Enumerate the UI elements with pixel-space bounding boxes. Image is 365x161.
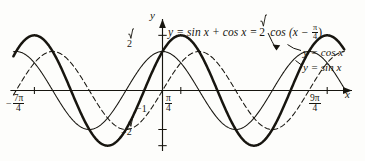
x-tick-label-9pi-4: 9π4: [309, 94, 321, 114]
sqrt-symbol: 2: [128, 28, 134, 49]
y-axis-label: y: [150, 10, 155, 21]
y-tick-label-neg-sqrt2: −2: [121, 116, 134, 138]
y-tick-label-neg-1: −1: [136, 104, 147, 114]
leader-line-cos: [288, 45, 302, 51]
leader-line-sin: [296, 61, 302, 66]
y-axis-arrowhead: [159, 19, 166, 28]
curve-label-cos: y = cos x: [303, 47, 343, 58]
x-tick-label-pi-4: π4: [165, 94, 172, 114]
fraction-9pi-4: 9π4: [309, 94, 321, 114]
sqrt-symbol-neg: 2: [128, 116, 134, 137]
sqrt-2-glyph: 2: [260, 14, 267, 39]
main-equation-cos: cos (x −: [267, 26, 312, 38]
leader-arrowhead-sum: [273, 45, 281, 51]
x-tick-label-neg-7pi-4: −7π4: [6, 94, 24, 114]
minus-sign: −: [6, 99, 13, 109]
main-equation-label: y = sin x + cos x = 2 cos (x − π4): [168, 14, 322, 42]
fraction-pi-4: π4: [165, 94, 172, 114]
x-axis-label: x: [345, 89, 350, 100]
pi-over-4-fraction: π4: [312, 24, 318, 42]
main-equation-close: ): [318, 26, 322, 38]
fraction-7pi-4: 7π4: [13, 94, 25, 114]
y-tick-label-sqrt2: 2: [128, 28, 134, 49]
main-equation-lhs: y = sin x + cos x =: [168, 26, 260, 38]
curve-label-sin: y = sin x: [303, 62, 341, 73]
